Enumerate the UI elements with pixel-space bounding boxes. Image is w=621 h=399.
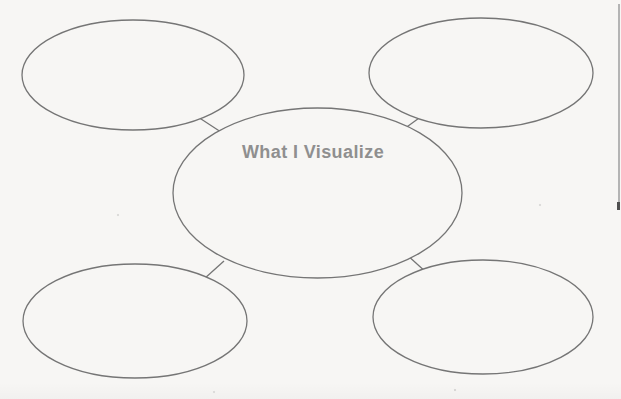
center-bubble-label: What I Visualize <box>163 141 463 163</box>
bubble-bottom-right <box>373 260 593 374</box>
bubble-bottom-left <box>23 264 247 378</box>
bubble-center <box>173 108 462 278</box>
bubble-map-diagram <box>0 0 621 399</box>
bubble-top-left <box>22 20 244 130</box>
connector-bottom-left-to-center <box>204 261 224 279</box>
worksheet-page: What I Visualize <box>0 0 621 399</box>
bubble-top-right <box>369 18 593 128</box>
